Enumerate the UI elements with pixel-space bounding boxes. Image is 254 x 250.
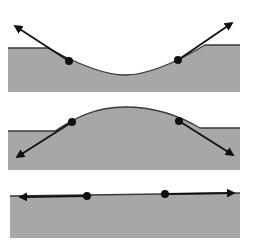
ground-fill: [10, 193, 240, 238]
panel-convex: [8, 107, 240, 170]
surface-point-dot: [65, 57, 73, 65]
diagram-canvas: [0, 0, 254, 250]
surface-point-dot: [68, 118, 76, 126]
panel-flat: [10, 190, 240, 238]
force-arrow-icon: [20, 196, 87, 197]
surface-point-dot: [174, 56, 182, 64]
surface-point-dot: [83, 192, 91, 200]
force-arrow-icon: [165, 193, 234, 194]
panel-concave: [8, 23, 240, 92]
surface-tension-diagram: [0, 0, 254, 250]
surface-point-dot: [175, 117, 183, 125]
surface-point-dot: [161, 190, 169, 198]
ground-fill: [8, 45, 240, 92]
